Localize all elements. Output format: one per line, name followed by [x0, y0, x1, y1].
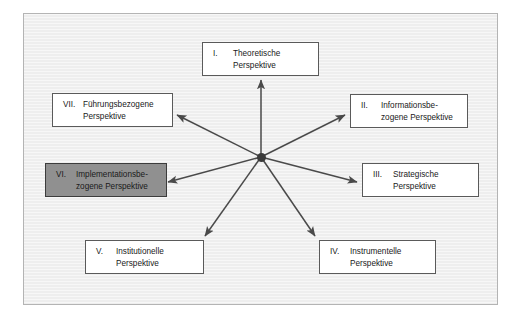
- node-label: Informationsbe- zogene Perspektive: [381, 100, 453, 123]
- node-implementationsbezogene-perspektive[interactable]: VI. Implementationsbe- zogene Perspektiv…: [45, 163, 167, 197]
- node-numeral: IV.: [330, 246, 350, 258]
- node-numeral: II.: [361, 100, 381, 112]
- node-institutionelle-perspektive[interactable]: V. Institutionelle Perspektive: [85, 240, 204, 274]
- node-numeral: VII.: [63, 99, 83, 111]
- node-label: Instrumentelle Perspektive: [350, 246, 401, 269]
- node-informationsbezogene-perspektive[interactable]: II. Informationsbe- zogene Perspektive: [350, 94, 468, 128]
- node-theoretische-perspektive[interactable]: I. Theoretische Perspektive: [202, 42, 319, 76]
- node-label: Theoretische Perspektive: [233, 48, 280, 71]
- node-numeral: III.: [373, 169, 393, 181]
- node-label: Strategische Perspektive: [393, 169, 439, 192]
- node-numeral: V.: [96, 246, 116, 258]
- diagram-canvas: I. Theoretische Perspektive II. Informat…: [0, 0, 522, 321]
- node-instrumentelle-perspektive[interactable]: IV. Instrumentelle Perspektive: [319, 240, 436, 274]
- center-hub-node: [257, 153, 266, 162]
- node-label: Implementationsbe- zogene Perspektive: [76, 169, 148, 192]
- node-numeral: I.: [213, 48, 233, 60]
- node-label: Führungsbezogene Perspektive: [83, 99, 154, 122]
- node-label: Institutionelle Perspektive: [116, 246, 164, 269]
- node-fuehrungsbezogene-perspektive[interactable]: VII. Führungsbezogene Perspektive: [52, 93, 173, 127]
- node-numeral: VI.: [56, 169, 76, 181]
- node-strategische-perspektive[interactable]: III. Strategische Perspektive: [362, 163, 479, 197]
